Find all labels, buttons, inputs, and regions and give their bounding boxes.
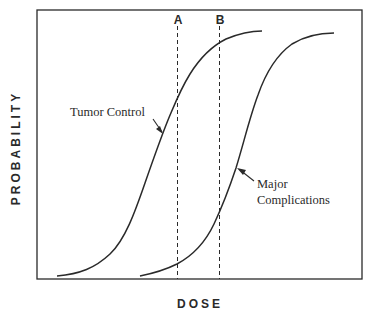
y-axis-title: PROBABILITY <box>9 91 23 205</box>
tumor-control-curve <box>57 31 262 276</box>
x-axis-title: DOSE <box>177 297 223 311</box>
plot-frame <box>37 10 362 279</box>
reference-label-a: A <box>174 13 183 27</box>
tumor-control-arrow-icon <box>153 119 163 134</box>
complications-label-line1: Major <box>257 177 288 191</box>
major-complications-curve <box>140 33 334 276</box>
reference-label-b: B <box>216 13 225 27</box>
tumor-control-label: Tumor Control <box>70 105 145 119</box>
dose-response-diagram: A B Tumor Control Major Complications DO… <box>0 0 369 314</box>
complications-arrow-icon <box>237 168 254 181</box>
complications-label-line2: Complications <box>257 193 330 207</box>
